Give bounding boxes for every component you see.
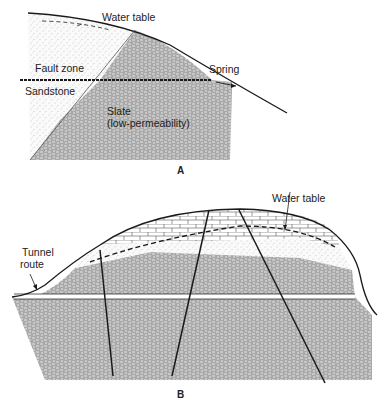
label-spring: Spring [209,63,239,75]
panel-b-letter: B [177,389,184,400]
label-tunnel: Tunnel [22,246,54,258]
label-route: route [20,258,44,270]
label-water-table-a: Water table [102,11,155,23]
panel-a-letter: A [177,165,184,176]
label-water-table-b: Water table [272,192,325,204]
label-sandstone: Sandstone [25,85,75,97]
label-slate: Slate [107,105,131,117]
panel-b-diagram [12,192,377,383]
label-fault-zone: Fault zone [35,62,84,74]
label-slate-permeability: (low-permeability) [107,117,190,129]
